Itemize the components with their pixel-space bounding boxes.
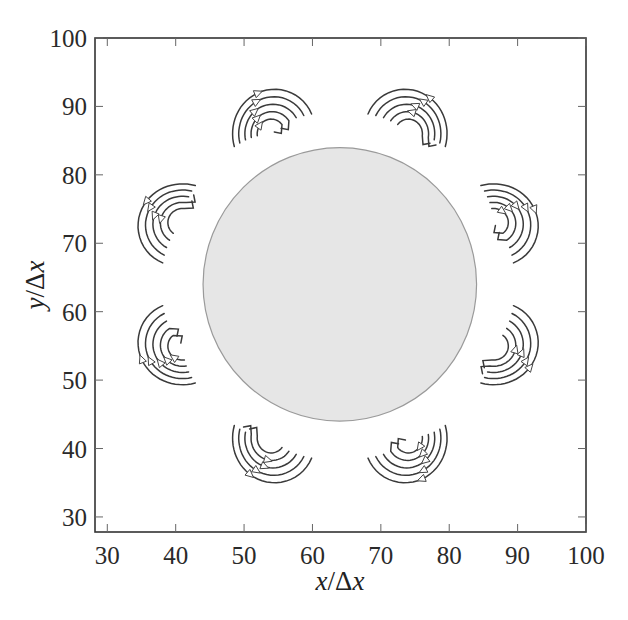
y-axis-label: y/Δx (20, 261, 50, 313)
y-tick-label: 90 (62, 93, 87, 120)
streamline (384, 104, 435, 140)
solid-body-disk (203, 148, 477, 422)
y-tick-label: 70 (62, 230, 87, 257)
x-tick-label: 100 (567, 542, 605, 569)
vortex-cluster-left-lower (138, 306, 195, 385)
flow-direction-arrow-icon (263, 455, 272, 462)
flow-direction-arrow-icon (252, 115, 260, 123)
flow-direction-arrow-icon (148, 203, 156, 212)
flow-direction-arrow-icon (148, 357, 155, 366)
flow-direction-arrow-icon (158, 215, 165, 224)
vortex-cluster-lower-right (368, 426, 447, 483)
flow-direction-arrow-icon (517, 349, 524, 358)
flow-direction-arrow-icon (419, 466, 428, 473)
y-tick-label: 40 (62, 436, 87, 463)
flow-direction-arrow-icon (417, 442, 425, 451)
y-tick-label: 100 (50, 25, 88, 52)
x-tick-label: 50 (232, 542, 257, 569)
x-axis-tick-labels: 30 40 50 60 70 80 90 100 (95, 542, 605, 569)
flow-direction-arrow-icon (408, 110, 417, 117)
flow-direction-arrow-icon (411, 103, 420, 110)
vortex-cluster-upper-right-top (368, 89, 447, 146)
y-tick-label: 50 (62, 367, 87, 394)
figure: 30 40 50 60 70 80 90 100 30 40 50 60 70 … (0, 0, 628, 620)
y-tick-label: 80 (62, 162, 87, 189)
flow-direction-arrow-icon (521, 357, 529, 366)
streamline (245, 432, 296, 468)
x-tick-label: 40 (163, 542, 188, 569)
flow-direction-arrow-icon (419, 99, 428, 107)
y-axis-label-unit: x (20, 261, 50, 274)
flow-direction-arrow-icon (419, 449, 427, 457)
x-axis-label: x/Δx (315, 566, 365, 596)
y-tick-label: 30 (62, 504, 87, 531)
y-axis-label-sep: /Δ (20, 273, 50, 298)
vortex-cluster-left-upper (138, 184, 195, 263)
flow-direction-arrow-icon (164, 357, 172, 365)
y-tick-label: 60 (62, 299, 87, 326)
flow-direction-arrow-icon (530, 205, 537, 214)
plot-area (138, 89, 538, 482)
x-tick-label: 80 (437, 542, 462, 569)
vortex-cluster-right-upper (481, 184, 538, 263)
flow-direction-arrow-icon (252, 466, 261, 474)
flow-direction-arrow-icon (521, 203, 528, 212)
flow-direction-arrow-icon (255, 122, 263, 131)
flow-direction-arrow-icon (152, 211, 159, 220)
x-tick-label: 30 (95, 542, 120, 569)
vortex-cluster-right-lower (481, 306, 538, 385)
flow-direction-arrow-icon (253, 91, 262, 98)
flow-direction-arrow-icon (511, 345, 518, 354)
x-axis-label-unit: x (351, 566, 364, 596)
flow-direction-arrow-icon (252, 99, 261, 106)
vortex-cluster-upper-left-top (233, 89, 312, 146)
flow-direction-arrow-icon (504, 203, 512, 211)
flow-direction-arrow-icon (417, 474, 426, 481)
flow-direction-arrow-icon (170, 355, 179, 363)
streamline (153, 196, 189, 247)
x-axis-label-sep: /Δ (328, 566, 353, 596)
x-axis-label-var: x (315, 566, 328, 596)
y-axis-tick-labels: 30 40 50 60 70 80 90 100 (50, 25, 88, 531)
flow-direction-arrow-icon (139, 355, 146, 364)
y-axis-label-var: y (20, 297, 50, 312)
x-tick-label: 60 (300, 542, 325, 569)
x-tick-label: 90 (505, 542, 530, 569)
x-tick-label: 70 (368, 542, 393, 569)
vortex-cluster-lower-left (233, 426, 312, 483)
flow-direction-arrow-icon (497, 206, 506, 214)
streamline (488, 321, 524, 372)
flow-direction-arrow-icon (260, 462, 269, 469)
